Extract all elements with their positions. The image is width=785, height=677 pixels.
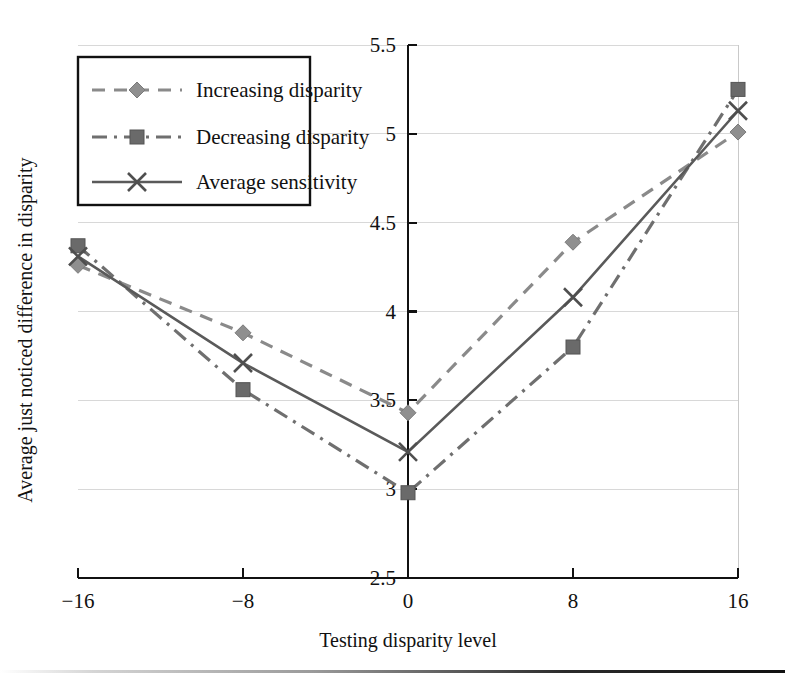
page-bottom-rule (0, 670, 785, 673)
x-tick-label: 0 (403, 589, 414, 613)
x-tick-label: 8 (568, 589, 579, 613)
marker-square (130, 130, 144, 144)
y-tick-label: 5.5 (370, 33, 396, 57)
line-chart: −16−80816 2.533.544.555.5 Testing dispar… (0, 0, 785, 677)
legend: Increasing disparityDecreasing disparity… (78, 57, 370, 205)
marker-cross (234, 354, 252, 372)
legend-item-label: Decreasing disparity (196, 125, 370, 149)
x-tick-label: −16 (62, 589, 95, 613)
marker-diamond (730, 124, 746, 140)
marker-cross (564, 288, 582, 306)
marker-square (236, 383, 250, 397)
y-tick-label: 4 (386, 300, 397, 324)
marker-square (731, 82, 745, 96)
y-tick-label: 5 (386, 122, 397, 146)
y-tick-label: 4.5 (370, 211, 396, 235)
marker-diamond (235, 325, 251, 341)
x-axis-tick-labels: −16−80816 (62, 589, 749, 613)
marker-square (566, 340, 580, 354)
legend-item-label: Average sensitivity (196, 170, 358, 194)
y-tick-label: 2.5 (370, 566, 396, 590)
y-axis-title: Average just noticed difference in dispa… (14, 157, 37, 502)
legend-item-label: Increasing disparity (196, 78, 363, 102)
marker-square (401, 486, 415, 500)
marker-diamond (400, 405, 416, 421)
x-axis-title: Testing disparity level (319, 629, 497, 652)
x-tick-label: 16 (728, 589, 749, 613)
x-axis-ticks (78, 568, 738, 578)
x-tick-label: −8 (232, 589, 254, 613)
figure-container: −16−80816 2.533.544.555.5 Testing dispar… (0, 0, 785, 677)
